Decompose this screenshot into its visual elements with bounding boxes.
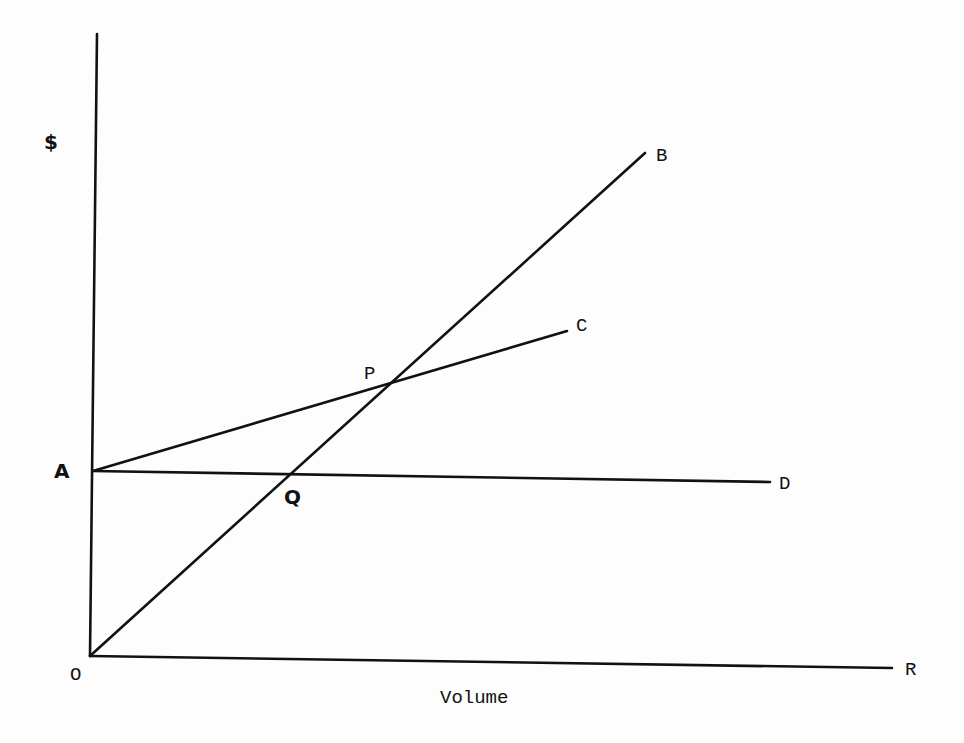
point-label-B: B [656,145,667,167]
point-label-O: O [70,664,81,686]
point-label-Q: Q [284,485,301,509]
point-label-C: C [576,315,587,337]
point-label-A: A [54,459,70,483]
cvp-diagram: $ Volume O A B C D R P Q [0,0,964,743]
x-axis-label: Volume [440,687,508,709]
point-label-R: R [905,659,916,681]
point-label-P: P [364,363,375,385]
diagram-canvas: $ Volume O A B C D R P Q [0,0,964,743]
y-axis-label: $ [44,130,58,154]
point-label-D: D [779,473,790,495]
bleed-through-text [0,0,964,743]
